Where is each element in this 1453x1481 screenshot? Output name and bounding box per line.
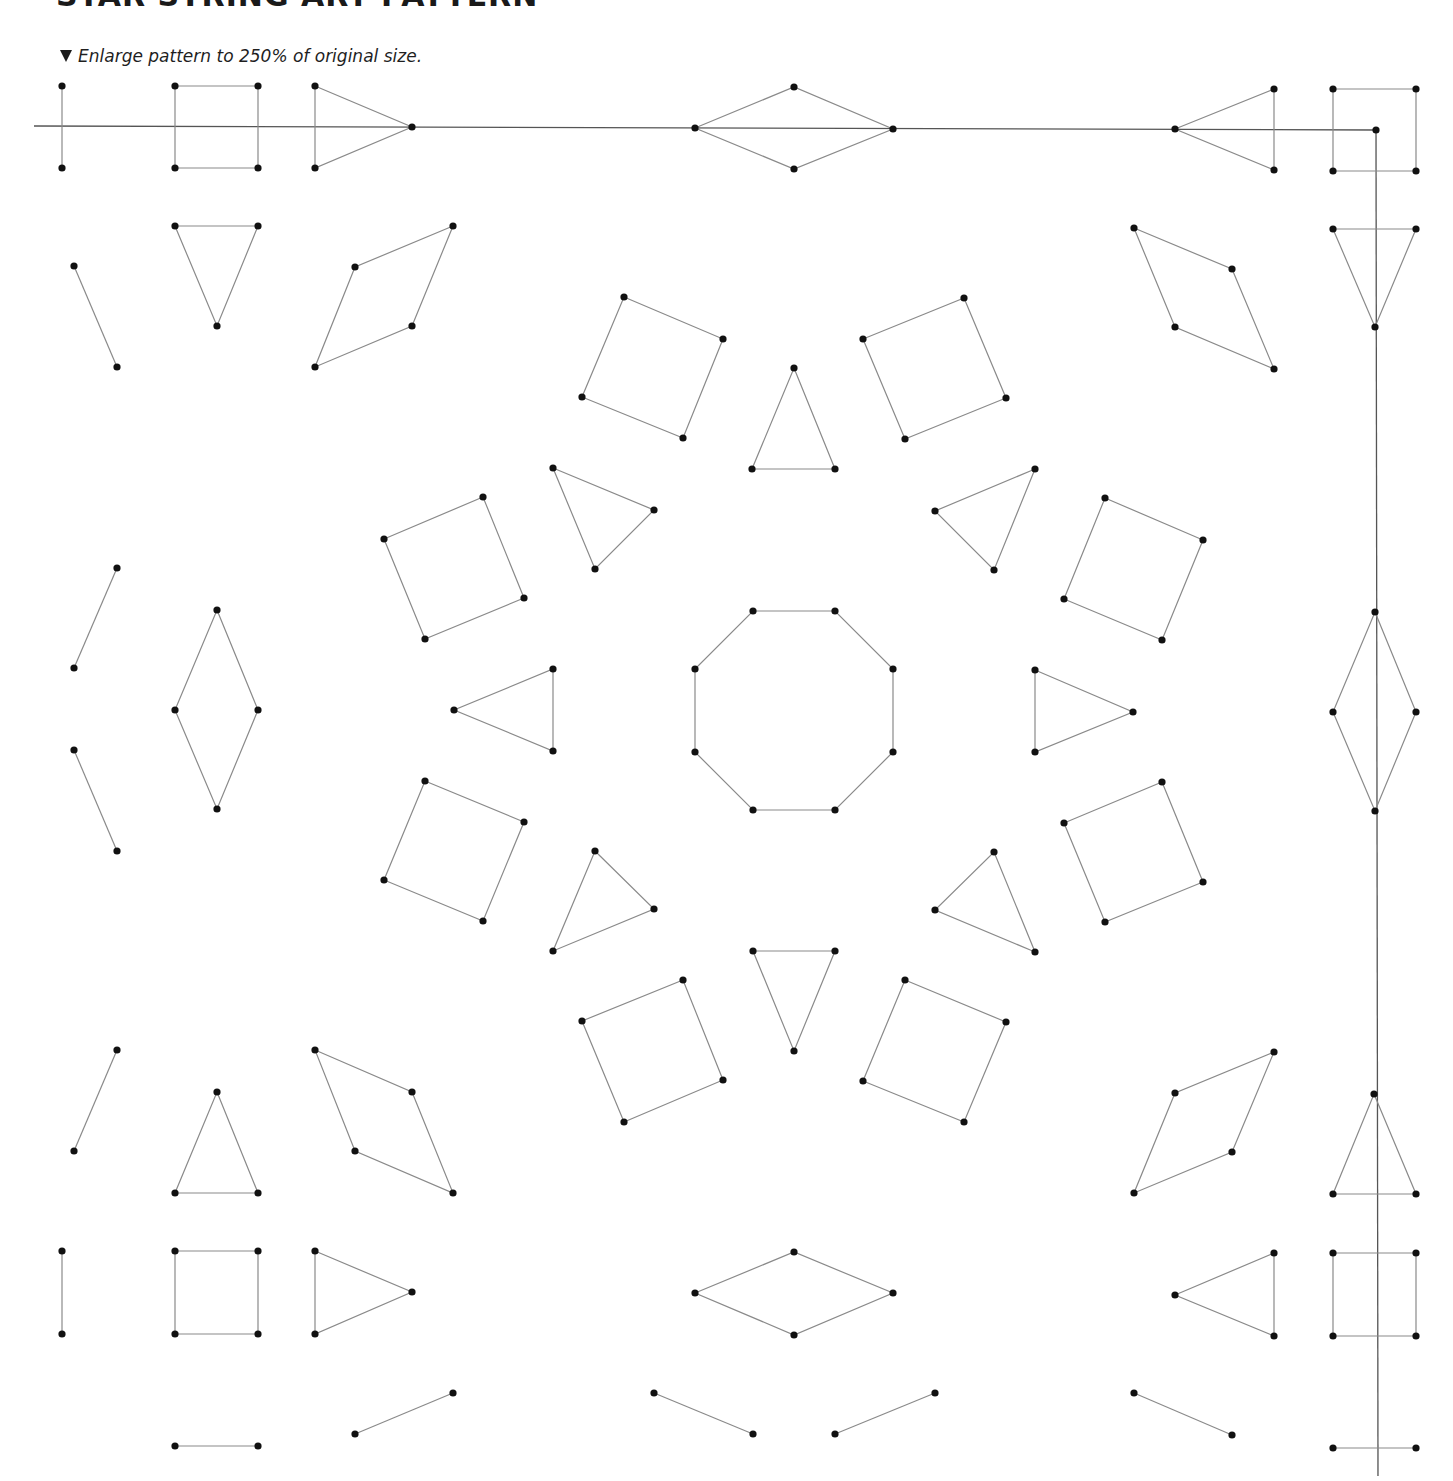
bottom-diagonal-segment-1 <box>355 1393 453 1434</box>
nail-dot <box>1412 85 1419 92</box>
nail-dot <box>1329 85 1336 92</box>
ring-triangle-nw-outline <box>553 468 654 569</box>
nail-dot <box>549 947 556 954</box>
nail-dot <box>901 976 908 983</box>
nail-dot <box>1101 494 1108 501</box>
bottom-left-pointing-triangle <box>1175 1253 1274 1336</box>
nail-dot <box>254 1330 261 1337</box>
nail-dot <box>1370 1090 1377 1097</box>
nail-dot <box>58 82 65 89</box>
nail-dot <box>1270 85 1277 92</box>
bottom-diagonal-segment-2 <box>654 1393 753 1434</box>
nail-dot <box>1412 1444 1419 1451</box>
ring-triangle-sw <box>553 851 654 951</box>
bottom-diagonal-segment-3-outline <box>835 1393 935 1434</box>
nail-dot <box>1412 167 1419 174</box>
nail-dot <box>831 806 838 813</box>
nail-dot <box>1329 1249 1336 1256</box>
nail-dot <box>748 465 755 472</box>
nail-dot <box>58 1330 65 1337</box>
ring-triangle-w <box>454 669 553 751</box>
nail-dot <box>931 507 938 514</box>
nail-dot <box>931 1389 938 1396</box>
nail-dot <box>1372 126 1379 133</box>
bottom-right-pointing-triangle-outline <box>315 1251 412 1334</box>
nail-dot <box>171 222 178 229</box>
nail-dot <box>719 335 726 342</box>
nail-dot <box>1002 1018 1009 1025</box>
ring-square-w-lower <box>384 781 524 921</box>
left-diamond <box>175 610 258 809</box>
nail-dot <box>679 976 686 983</box>
bottom-center-diamond-outline <box>695 1252 893 1335</box>
nail-dot <box>620 1118 627 1125</box>
nail-dot <box>1158 636 1165 643</box>
nail-dot <box>549 665 556 672</box>
right-diamond-outline <box>1333 612 1416 811</box>
nail-dot <box>421 777 428 784</box>
left-parallelogram-top <box>315 226 453 367</box>
nail-dot <box>1371 608 1378 615</box>
right-down-triangle <box>1333 229 1416 327</box>
nail-dot <box>58 1247 65 1254</box>
ring-square-w-upper <box>384 497 524 639</box>
left-diagonal-segment-2 <box>74 568 117 668</box>
nail-dot <box>171 1247 178 1254</box>
ring-square-s-right <box>863 980 1006 1122</box>
right-down-triangle-outline <box>1333 229 1416 327</box>
nail-dot <box>254 1189 261 1196</box>
nail-dot <box>990 566 997 573</box>
ring-square-w-lower-outline <box>384 781 524 921</box>
bottom-right-square-outline <box>1333 1253 1416 1336</box>
nail-dot <box>1371 323 1378 330</box>
nail-dot <box>1228 1148 1235 1155</box>
ring-triangle-n <box>752 368 835 469</box>
left-down-triangle-outline <box>175 226 258 326</box>
nail-dot <box>889 1289 896 1296</box>
nail-dot <box>1329 225 1336 232</box>
nail-dot <box>831 607 838 614</box>
bottom-left-square-outline <box>175 1251 258 1334</box>
nail-dots <box>58 82 1419 1451</box>
nail-dot <box>889 748 896 755</box>
nail-dot <box>58 164 65 171</box>
nail-dot <box>254 82 261 89</box>
nail-dot <box>213 1088 220 1095</box>
nail-dot <box>113 847 120 854</box>
ring-triangle-se <box>935 852 1035 952</box>
left-diagonal-segment-4-outline <box>74 1050 117 1151</box>
nail-dot <box>254 706 261 713</box>
ring-triangle-s <box>753 951 835 1051</box>
bottom-center-diamond <box>695 1252 893 1335</box>
ring-triangle-ne <box>935 469 1035 570</box>
nail-dot <box>790 165 797 172</box>
nail-dot <box>960 1118 967 1125</box>
nail-dot <box>1101 918 1108 925</box>
nail-dot <box>449 222 456 229</box>
nail-dot <box>901 435 908 442</box>
nail-dot <box>311 363 318 370</box>
nail-dot <box>113 1046 120 1053</box>
nail-dot <box>520 818 527 825</box>
nail-dot <box>408 1288 415 1295</box>
nail-dot <box>691 665 698 672</box>
right-parallelogram-bottom <box>1134 1052 1274 1193</box>
left-diamond-outline <box>175 610 258 809</box>
right-up-triangle-outline <box>1333 1094 1416 1194</box>
nail-dot <box>113 564 120 571</box>
nail-dot <box>1228 265 1235 272</box>
nail-dot <box>1031 948 1038 955</box>
nail-dot <box>749 947 756 954</box>
ring-square-e-lower <box>1064 782 1203 922</box>
nail-dot <box>549 747 556 754</box>
nail-dot <box>520 594 527 601</box>
nail-dot <box>1199 878 1206 885</box>
nail-dot <box>70 1147 77 1154</box>
nail-dot <box>449 1389 456 1396</box>
bottom-left-pointing-triangle-outline <box>1175 1253 1274 1336</box>
left-diagonal-segment-4 <box>74 1050 117 1151</box>
nail-dot <box>70 262 77 269</box>
right-diamond <box>1333 612 1416 811</box>
left-diagonal-segment-3-outline <box>74 750 117 851</box>
nail-dot <box>1130 224 1137 231</box>
